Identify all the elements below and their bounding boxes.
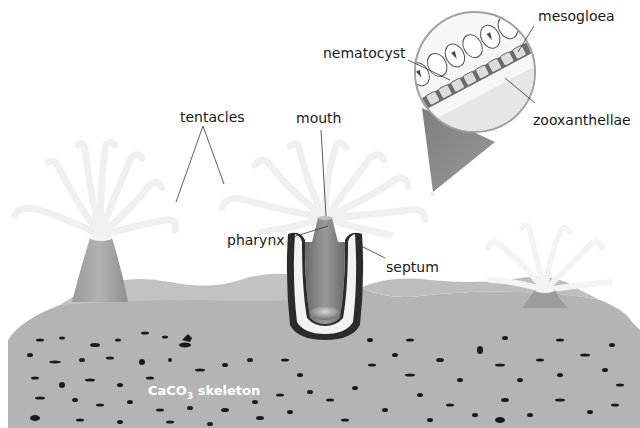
skeleton-label-prefix: CaCO (148, 383, 187, 398)
label-nematocyst: nematocyst (323, 46, 406, 60)
label-tentacles: tentacles (180, 110, 245, 124)
right-polyp-tentacles (488, 225, 610, 290)
label-zooxanthellae: zooxanthellae (533, 113, 631, 127)
center-polyp-cross-section (287, 216, 363, 340)
label-septum: septum (386, 260, 439, 274)
label-mouth: mouth (296, 111, 341, 125)
magnified-callout (394, 12, 597, 168)
skeleton-label-suffix: skeleton (193, 383, 260, 398)
left-polyp-tentacles (15, 142, 176, 235)
tentacles-leader (176, 126, 224, 202)
coral-polyp-diagram: tentacles mouth pharynx septum nematocys… (0, 0, 640, 428)
label-mesogloea: mesogloea (538, 9, 615, 23)
left-polyp-body (72, 236, 128, 302)
diagram-illustration (0, 0, 640, 428)
label-skeleton: CaCO3 skeleton (148, 384, 260, 401)
label-pharynx: pharynx (227, 233, 285, 247)
